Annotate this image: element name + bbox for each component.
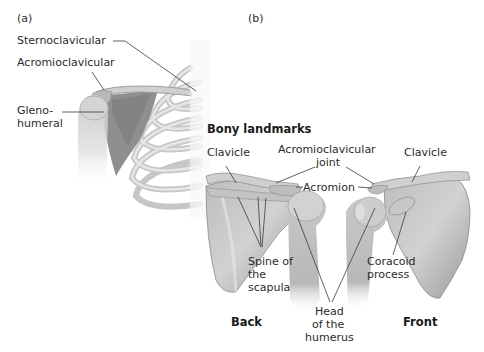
label-head-of-humerus-2: of the — [312, 319, 344, 331]
label-head-of-humerus-1: Head — [315, 306, 344, 318]
anatomy-illustration — [0, 0, 484, 352]
front-view-illustration — [346, 172, 470, 311]
panel-a-tag: (a) — [17, 13, 32, 25]
panel-b-tag: (b) — [248, 13, 264, 25]
section-heading-bony-landmarks: Bony landmarks — [207, 123, 311, 135]
label-glenohumeral-1: Gleno- — [17, 105, 53, 117]
label-sternoclavicular: Sternoclavicular — [17, 35, 106, 47]
view-label-back: Back — [231, 316, 262, 328]
label-ac-joint-2: joint — [316, 157, 340, 169]
label-spine-of-scapula-3: scapula — [248, 282, 290, 294]
label-acromion: Acromion — [303, 182, 355, 194]
label-coracoid-1: Coracoid — [367, 256, 416, 268]
label-spine-of-scapula-1: Spine of — [248, 256, 293, 268]
label-head-of-humerus-3: humerus — [305, 332, 354, 344]
label-coracoid-2: process — [367, 269, 409, 281]
label-spine-of-scapula-2: the — [248, 269, 266, 281]
view-label-front: Front — [403, 316, 437, 328]
label-ac-joint-1: Acromioclavicular — [278, 144, 376, 156]
label-clavicle-back: Clavicle — [207, 147, 250, 159]
label-glenohumeral-2: humeral — [17, 118, 63, 130]
label-clavicle-front: Clavicle — [404, 147, 447, 159]
label-acromioclavicular: Acromioclavicular — [17, 57, 115, 69]
